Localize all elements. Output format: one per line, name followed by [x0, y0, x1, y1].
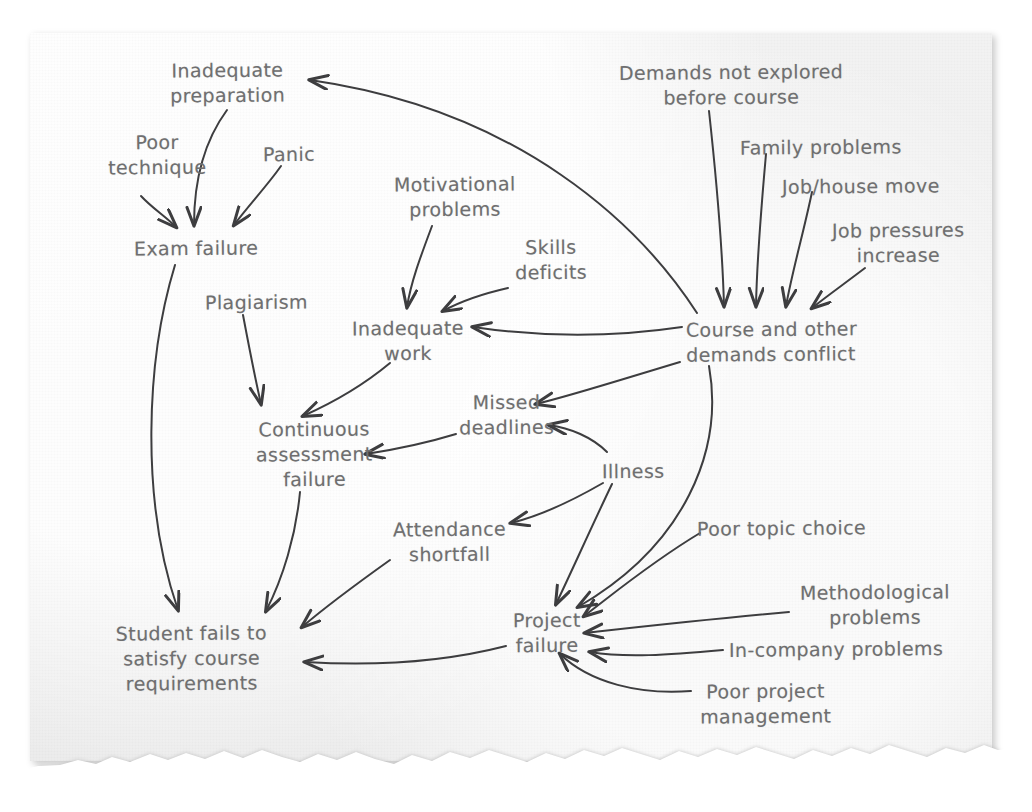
node-job-house-move[interactable]: Job/house move [782, 173, 940, 199]
edge-plagiarism-to-continuous-assessment [243, 315, 261, 404]
edge-skills-deficits-to-inadequate-work [443, 288, 508, 311]
edge-course-demands-to-missed-deadlines [536, 362, 680, 404]
edge-demands-not-explored-to-course-demands [709, 111, 724, 306]
edge-continuous-assessment-to-student-fails [266, 492, 300, 611]
edge-poor-technique-to-exam-failure [141, 196, 176, 227]
node-panic[interactable]: Panic [263, 142, 315, 167]
node-motivational-problems[interactable]: Motivational problems [394, 171, 516, 222]
edge-course-demands-to-inadequate-work [473, 327, 682, 335]
screenshot-canvas: Inadequate preparation Poor technique Pa… [0, 0, 1032, 812]
edge-attendance-shortfall-to-student-fails [302, 560, 390, 627]
node-missed-deadlines[interactable]: Missed deadlines [459, 390, 555, 441]
node-illness[interactable]: Illness [602, 459, 665, 485]
edge-motivational-problems-to-inadequate-work [407, 226, 432, 307]
node-attendance-shortfall[interactable]: Attendance shortfall [393, 517, 507, 568]
edge-illness-to-project-failure [556, 484, 612, 604]
node-student-fails[interactable]: Student fails to satisfy course requirem… [116, 620, 268, 696]
node-skills-deficits[interactable]: Skills deficits [515, 235, 587, 286]
edge-panic-to-exam-failure [234, 166, 281, 225]
node-job-pressures-increase[interactable]: Job pressures increase [832, 217, 965, 268]
edge-missed-deadlines-to-continuous-assessment [366, 434, 456, 454]
edge-in-company-problems-to-project-failure [590, 650, 723, 655]
edge-project-failure-to-student-fails [305, 646, 506, 664]
edge-exam-failure-to-student-fails [151, 265, 178, 610]
edge-poor-project-management-to-project-failure [560, 654, 691, 692]
edge-inadequate-work-to-continuous-assessment [303, 363, 390, 416]
node-poor-project-management[interactable]: Poor project management [700, 678, 832, 729]
node-exam-failure[interactable]: Exam failure [134, 235, 258, 261]
edge-family-problems-to-course-demands [756, 154, 766, 306]
node-plagiarism[interactable]: Plagiarism [205, 290, 308, 316]
node-in-company-problems[interactable]: In-company problems [729, 636, 943, 663]
node-course-demands-conflict[interactable]: Course and other demands conflict [686, 316, 858, 367]
edge-job-pressures-to-course-demands [812, 268, 865, 308]
node-methodological-problems[interactable]: Methodological problems [800, 579, 951, 630]
node-project-failure[interactable]: Project failure [513, 608, 581, 659]
node-poor-technique[interactable]: Poor technique [108, 130, 207, 181]
node-family-problems[interactable]: Family problems [740, 134, 902, 160]
edge-illness-to-attendance-shortfall [511, 483, 603, 523]
edge-methodological-problems-to-project-failure [585, 612, 789, 633]
node-inadequate-preparation[interactable]: Inadequate preparation [170, 57, 286, 108]
node-continuous-assessment-failure[interactable]: Continuous assessment failure [256, 416, 373, 492]
edge-illness-to-missed-deadlines [549, 425, 607, 452]
node-poor-topic-choice[interactable]: Poor topic choice [697, 515, 866, 541]
node-inadequate-work[interactable]: Inadequate work [352, 316, 464, 367]
node-demands-not-explored[interactable]: Demands not explored before course [619, 59, 844, 111]
edge-job-house-move-to-course-demands [786, 192, 812, 306]
edge-poor-topic-choice-to-project-failure [584, 533, 700, 616]
